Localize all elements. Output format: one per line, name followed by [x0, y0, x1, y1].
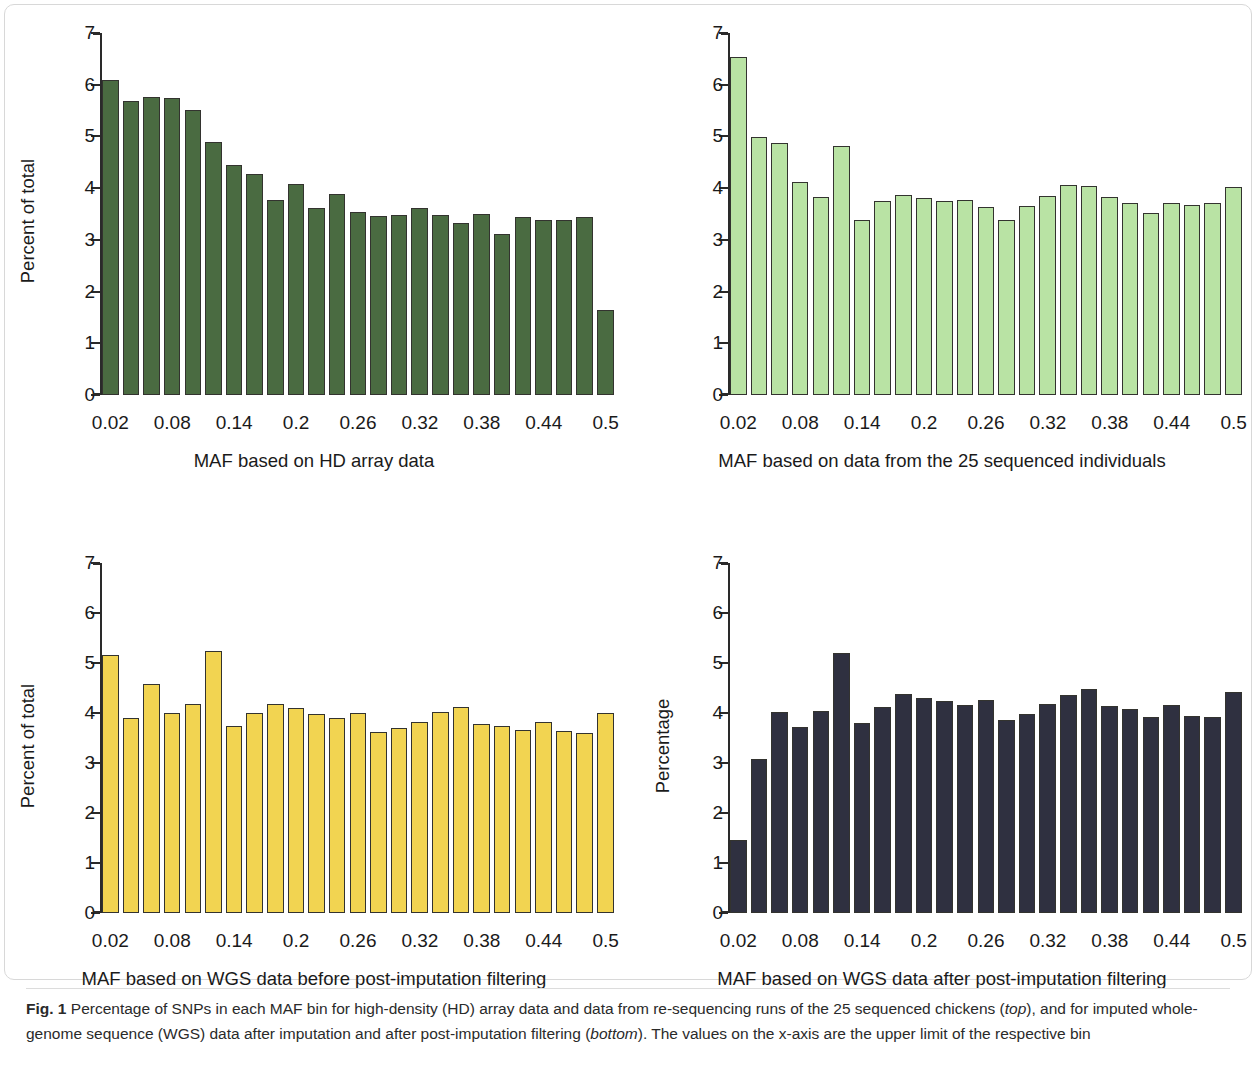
- y-axis-tick-label: 4: [84, 178, 95, 197]
- caption-emphasis-top: top: [1005, 1000, 1027, 1017]
- y-axis-tick-label: 3: [84, 230, 95, 249]
- bar: [916, 698, 933, 914]
- plot-area-sequenced-individuals: 012345670.020.080.140.20.260.320.380.440…: [728, 33, 1244, 395]
- x-axis-tick-label: 0.08: [782, 413, 819, 432]
- bar: [432, 215, 449, 395]
- bar: [833, 653, 850, 914]
- x-axis-tick-label: 0.44: [1153, 931, 1190, 950]
- bar: [329, 718, 346, 913]
- y-axis-tick-label: 1: [712, 333, 723, 352]
- bar: [226, 726, 243, 913]
- x-axis-tick-label: 0.44: [525, 931, 562, 950]
- bar: [535, 722, 552, 913]
- y-axis-tick-label: 6: [84, 603, 95, 622]
- x-axis-tick-label: 0.5: [1220, 931, 1246, 950]
- bar: [123, 101, 140, 395]
- bar: [1039, 196, 1056, 395]
- bar: [730, 840, 747, 914]
- bar: [308, 208, 325, 395]
- bar: [453, 707, 470, 913]
- x-axis-tick-label: 0.32: [401, 413, 438, 432]
- bar: [1143, 717, 1160, 914]
- x-axis-ticks: 0.020.080.140.20.260.320.380.440.5: [100, 913, 616, 959]
- y-axis-tick-label: 6: [84, 75, 95, 94]
- bar: [936, 201, 953, 395]
- x-axis-tick-label: 0.38: [1091, 931, 1128, 950]
- bar: [751, 759, 768, 914]
- bar: [556, 731, 573, 914]
- bar: [370, 216, 387, 395]
- bar: [751, 137, 768, 395]
- y-axis-tick-label: 3: [84, 753, 95, 772]
- bar: [1019, 714, 1036, 914]
- y-axis-tick-label: 5: [712, 653, 723, 672]
- bar: [1039, 704, 1056, 913]
- bar: [494, 726, 511, 914]
- y-axis-title-wgs-before: Percent of total: [17, 656, 39, 836]
- bar: [1163, 203, 1180, 395]
- x-axis-title-hd-array: MAF based on HD array data: [0, 450, 628, 472]
- x-axis-tick-label: 0.26: [340, 413, 377, 432]
- bar: [1081, 186, 1098, 395]
- x-axis-tick-label: 0.14: [844, 931, 881, 950]
- chart-panel-hd-array: Percent of total 012345670.020.080.140.2…: [0, 10, 628, 490]
- x-axis-tick-label: 0.02: [92, 931, 129, 950]
- bar: [515, 217, 532, 395]
- caption-text-3: ). The values on the x-axis are the uppe…: [638, 1025, 1091, 1042]
- x-axis-tick-label: 0.38: [463, 413, 500, 432]
- x-axis-tick-label: 0.2: [283, 413, 309, 432]
- x-axis-ticks: 0.020.080.140.20.260.320.380.440.5: [100, 395, 616, 441]
- bar: [143, 684, 160, 913]
- y-axis-tick-label: 2: [712, 281, 723, 300]
- bar: [1184, 205, 1201, 395]
- x-axis-tick-label: 0.5: [1220, 413, 1246, 432]
- y-axis-tick-label: 4: [712, 178, 723, 197]
- bar: [391, 728, 408, 914]
- bar: [1143, 213, 1160, 395]
- x-axis-ticks: 0.020.080.140.20.260.320.380.440.5: [728, 913, 1244, 959]
- bar: [874, 707, 891, 913]
- bar: [432, 712, 449, 913]
- bar: [164, 98, 181, 395]
- y-axis-tick-label: 6: [712, 603, 723, 622]
- bar-series-sequenced-individuals: [728, 33, 1244, 395]
- x-axis-tick-label: 0.38: [463, 931, 500, 950]
- y-axis-tick-label: 2: [84, 803, 95, 822]
- plot-area-wgs-after: 012345670.020.080.140.20.260.320.380.440…: [728, 563, 1244, 913]
- bar: [473, 214, 490, 395]
- x-axis-title-sequenced-individuals: MAF based on data from the 25 sequenced …: [628, 450, 1256, 472]
- bar: [1204, 717, 1221, 914]
- bar: [267, 704, 284, 913]
- x-axis-tick-label: 0.14: [216, 931, 253, 950]
- bar-series-hd-array: [100, 33, 616, 395]
- y-axis-tick-label: 2: [84, 281, 95, 300]
- bar: [350, 713, 367, 914]
- bar: [143, 97, 160, 395]
- bar: [978, 700, 995, 913]
- bar: [1101, 706, 1118, 913]
- bar: [205, 142, 222, 395]
- bar: [936, 701, 953, 914]
- x-axis-tick-label: 0.2: [283, 931, 309, 950]
- bar: [288, 184, 305, 396]
- bar: [308, 714, 325, 914]
- bar: [1225, 692, 1242, 913]
- y-axis-tick-label: 6: [712, 75, 723, 94]
- y-axis-tick-label: 2: [712, 803, 723, 822]
- bar: [370, 732, 387, 913]
- bar: [267, 200, 284, 395]
- x-axis-tick-label: 0.2: [911, 413, 937, 432]
- bar: [411, 722, 428, 914]
- y-axis-tick-label: 4: [84, 703, 95, 722]
- chart-panel-sequenced-individuals: 012345670.020.080.140.20.260.320.380.440…: [628, 10, 1256, 490]
- y-axis-tick-label: 1: [84, 333, 95, 352]
- bar: [916, 198, 933, 395]
- bar: [1060, 695, 1077, 913]
- bar: [411, 208, 428, 395]
- bar: [494, 234, 511, 395]
- bar: [1204, 203, 1221, 395]
- bar: [123, 718, 140, 913]
- bar: [978, 207, 995, 395]
- bar: [597, 713, 614, 914]
- y-axis-tick-label: 3: [712, 230, 723, 249]
